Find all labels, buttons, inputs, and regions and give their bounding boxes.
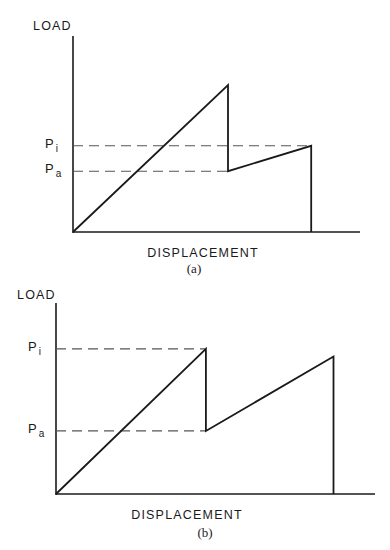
reference-lines — [73, 146, 311, 171]
reference-labels: PiPa — [45, 136, 62, 179]
reference-label-pi: Pi — [28, 339, 41, 357]
reference-lines — [56, 349, 206, 431]
x-axis-label: DISPLACEMENT — [131, 508, 243, 522]
reference-label-pa: Pa — [45, 161, 62, 179]
load-curve — [73, 85, 311, 232]
panel-caption: (a) — [187, 261, 201, 276]
load-displacement-diagrams: LOAD PiPa DISPLACEMENT (a) LOAD PiPa DIS… — [0, 0, 390, 550]
reference-label-pi: Pi — [45, 136, 58, 154]
x-axis-label: DISPLACEMENT — [147, 246, 259, 260]
load-curve — [56, 349, 334, 494]
panel-caption: (b) — [197, 525, 212, 540]
y-axis-label: LOAD — [17, 288, 56, 302]
reference-label-pa: Pa — [28, 421, 45, 439]
reference-labels: PiPa — [28, 339, 45, 439]
panel-b: LOAD PiPa DISPLACEMENT (b) — [17, 288, 375, 540]
y-axis-label: LOAD — [33, 19, 72, 33]
panel-a: LOAD PiPa DISPLACEMENT (a) — [33, 19, 360, 276]
